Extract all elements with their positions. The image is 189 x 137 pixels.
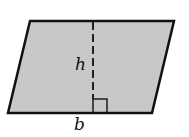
parallelogram-svg: [0, 0, 189, 137]
base-label: b: [74, 116, 85, 133]
parallelogram-diagram: h b: [0, 0, 189, 137]
parallelogram-shape: [8, 21, 174, 113]
height-label: h: [75, 56, 86, 73]
